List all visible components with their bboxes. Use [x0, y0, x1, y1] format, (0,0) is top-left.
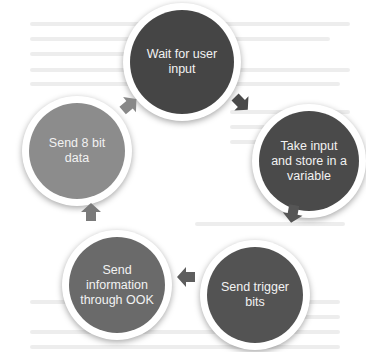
node-label: Send information through OOK — [79, 263, 155, 308]
node-wait-for-user-input: Wait for user input — [123, 3, 241, 121]
node-take-input-store-variable: Take input and store in a variable — [252, 104, 366, 218]
node-label: Send trigger bits — [217, 280, 293, 310]
node-label: Wait for user input — [140, 47, 224, 77]
node-send-8-bit-data: Send 8 bit data — [22, 96, 132, 206]
node-send-trigger-bits: Send trigger bits — [200, 240, 310, 350]
arrow-left-icon — [177, 267, 195, 287]
arrow-up-icon — [81, 203, 101, 221]
node-label: Take input and store in a variable — [269, 139, 349, 184]
node-send-information-ook: Send information through OOK — [62, 230, 172, 340]
node-label: Send 8 bit data — [39, 136, 115, 166]
